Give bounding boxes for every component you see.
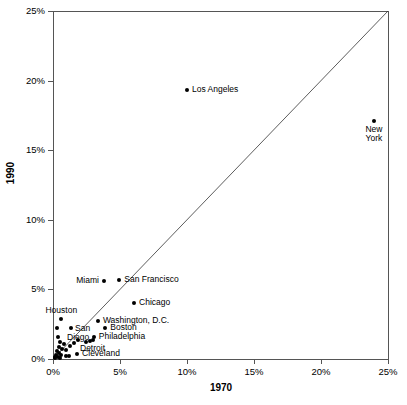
data-point-chicago [132, 301, 136, 305]
plot-frame-right [388, 11, 389, 359]
point-label-los-angeles: Los Angeles [192, 86, 238, 96]
y-tick-mark [48, 150, 53, 151]
point-label-chicago: Chicago [139, 298, 170, 308]
x-tick-mark [254, 359, 255, 364]
x-tick-mark [187, 359, 188, 364]
data-point-new-york [372, 119, 376, 123]
y-tick-label: 15% [26, 145, 45, 155]
x-tick-mark [120, 359, 121, 364]
point-label-line: York [357, 134, 391, 144]
y-axis-title-wrap: 1990 [0, 0, 20, 370]
data-point-san-diego [69, 326, 73, 330]
x-tick-label: 5% [113, 367, 127, 377]
y-tick-label: 20% [26, 76, 45, 86]
plot-frame-bottom [53, 359, 389, 360]
point-label-miami: Miami [76, 276, 99, 286]
x-tick-label: 20% [311, 367, 330, 377]
y-tick-mark [48, 11, 53, 12]
point-label-houston: Houston [45, 306, 77, 316]
data-point [72, 341, 76, 345]
data-point-cleveland [75, 352, 79, 356]
x-axis-title: 1970 [53, 383, 389, 393]
data-point [76, 338, 80, 342]
y-tick-mark [48, 289, 53, 290]
scatter-plot-figure: 0%5%10%15%20%25% 0%5%10%15%20%25% NewYor… [0, 0, 407, 405]
data-point [53, 356, 57, 360]
y-tick-mark [48, 220, 53, 221]
x-tick-mark [388, 359, 389, 364]
x-tick-label: 10% [177, 367, 196, 377]
data-point [88, 339, 92, 343]
y-tick-label: 5% [31, 284, 45, 294]
y-tick-mark [48, 81, 53, 82]
y-axis-title: 1990 [6, 150, 16, 196]
y-tick-label: 0% [31, 354, 45, 364]
plot-area [53, 11, 388, 359]
y-tick-label: 10% [26, 215, 45, 225]
x-tick-label: 0% [46, 367, 60, 377]
data-point-miami [102, 279, 106, 283]
x-tick-label: 25% [378, 367, 397, 377]
point-label-san-francisco: San Francisco [124, 276, 178, 286]
x-tick-label: 15% [244, 367, 263, 377]
point-label-new-york: NewYork [357, 125, 391, 144]
x-tick-mark [321, 359, 322, 364]
point-label-cleveland: Cleveland [82, 349, 120, 359]
y-tick-label: 25% [26, 6, 45, 16]
